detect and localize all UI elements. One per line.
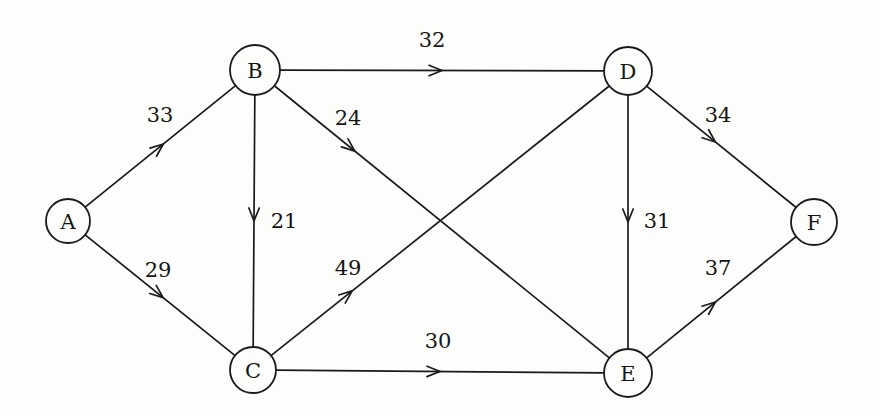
edge-weight-d-f: 34: [705, 103, 732, 127]
edge-weight-e-f: 37: [705, 256, 732, 280]
edge-weight-c-d: 49: [335, 256, 362, 280]
edge-weight-c-e: 30: [425, 329, 452, 353]
edge-c-d: [271, 86, 609, 356]
graph-node-d[interactable]: D: [604, 47, 652, 95]
node-label-c: C: [245, 359, 261, 383]
edge-e-f: [647, 236, 797, 357]
edge-weight-a-c: 29: [145, 258, 172, 282]
edge-weight-b-d: 32: [419, 28, 446, 52]
graph-diagram-canvas: ABCDEF 33293221244930343137: [0, 0, 879, 416]
graph-svg: ABCDEF 33293221244930343137: [0, 0, 879, 416]
edge-weight-b-c: 21: [271, 209, 298, 233]
node-label-b: B: [247, 59, 262, 83]
graph-node-e[interactable]: E: [604, 349, 652, 397]
node-label-e: E: [620, 362, 635, 386]
node-label-f: F: [807, 211, 822, 235]
edges-layer: [85, 70, 796, 373]
graph-node-c[interactable]: C: [230, 347, 276, 393]
node-label-a: A: [59, 210, 76, 234]
edge-weight-d-e: 31: [644, 209, 671, 233]
graph-node-f[interactable]: F: [791, 199, 837, 245]
edge-weight-a-b: 33: [147, 103, 174, 127]
graph-node-a[interactable]: A: [46, 199, 90, 243]
edge-weight-b-e: 24: [335, 106, 362, 130]
node-label-d: D: [620, 60, 637, 84]
graph-node-b[interactable]: B: [230, 45, 280, 95]
edge-a-c: [85, 235, 235, 356]
